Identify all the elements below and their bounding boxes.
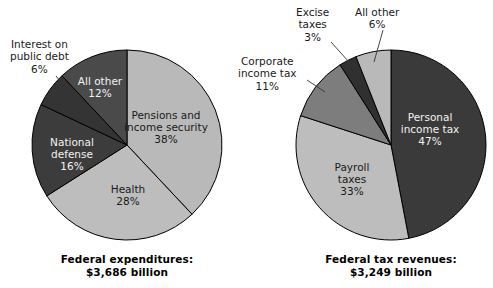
slice-label-excise-taxes: Excise taxes 3% [296, 6, 329, 43]
slice-label-all-other-revenues: All other 6% [355, 6, 399, 31]
slice-label-line1: Excise [296, 6, 329, 18]
slice-label-line2: income tax [238, 67, 297, 79]
slice-label-line: 47% [418, 135, 441, 147]
slice-label-line1: All other [355, 6, 399, 18]
slice-label-line: Health [111, 183, 145, 195]
slice-label-line2: public debt [10, 50, 69, 62]
chart-caption-federal-tax-revenues: Federal tax revenues: $3,249 billion [0, 253, 493, 279]
slice-label-line: income tax [401, 123, 460, 135]
slice-label-line2: taxes [298, 18, 326, 30]
leader-line-excise-taxes [331, 42, 349, 62]
slice-label-line: defense [51, 148, 93, 160]
slice-label-line: income security [124, 121, 208, 133]
slice-label-line: All other [78, 75, 123, 87]
slice-label-value: 11% [256, 80, 279, 92]
slice-label-line: taxes [338, 173, 366, 185]
caption-line2: $3,249 billion [350, 266, 432, 278]
slice-label-line: 33% [340, 185, 363, 197]
pie-chart-figure: Pensions andincome security38%Health28%N… [0, 0, 493, 288]
slice-label-line: Personal [408, 111, 453, 123]
slice-label-line1: Corporate [241, 55, 294, 67]
slice-label-corporate-income-tax: Corporate income tax 11% [238, 55, 297, 92]
pie-charts-canvas: Pensions andincome security38%Health28%N… [0, 0, 493, 288]
slice-label-interest-on-public-debt: Interest on public debt 6% [10, 38, 69, 75]
slice-label-value: 6% [31, 63, 48, 75]
slice-label-line: 12% [88, 87, 111, 99]
slice-label-line: 28% [116, 195, 139, 207]
slice-label-line: 16% [60, 160, 83, 172]
slice-label-line: National [50, 136, 94, 148]
slice-label-line: Payroll [335, 161, 370, 173]
slice-label-value: 3% [304, 31, 321, 43]
caption-line1: Federal tax revenues: [325, 253, 456, 265]
slice-label-line: Pensions and [131, 109, 200, 121]
slice-label-line1: Interest on [11, 38, 68, 50]
slice-label-line: 38% [154, 133, 177, 145]
slice-label-value: 6% [369, 18, 386, 30]
